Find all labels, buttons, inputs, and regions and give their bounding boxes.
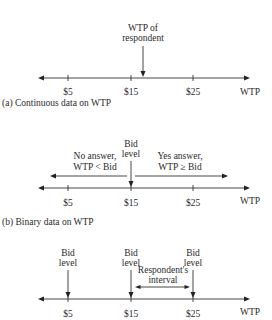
panel-b-binary: Bid level No answer, WTP < Bid Yes answe… bbox=[2, 139, 260, 228]
down-arrow-icon bbox=[66, 270, 71, 298]
bid-label-line1: Bid bbox=[124, 139, 138, 149]
down-arrow-icon bbox=[129, 270, 134, 298]
right-arrow-icon bbox=[135, 174, 228, 179]
caption-b: (b) Binary data on WTP bbox=[2, 217, 94, 228]
left-arrowhead-icon bbox=[38, 297, 44, 302]
tick-label-15: $15 bbox=[124, 309, 139, 319]
wtp-diagram: WTP of respondent $5 $15 $25 WTP (a) Con… bbox=[0, 0, 272, 320]
interval-label-line2: interval bbox=[148, 275, 177, 285]
panel-a-continuous: WTP of respondent $5 $15 $25 WTP (a) Con… bbox=[2, 23, 260, 109]
wtp-axis-b bbox=[38, 185, 250, 191]
double-arrow-icon bbox=[135, 285, 190, 289]
tick-label-5: $5 bbox=[63, 309, 73, 319]
right-arrowhead-icon bbox=[244, 76, 250, 81]
bid-label-5-line2: level bbox=[59, 258, 78, 268]
panel-c-interval: Bid level Bid level Bid level Respondent… bbox=[38, 248, 260, 319]
bid-label-25-line1: Bid bbox=[186, 248, 200, 258]
tick-label-25: $25 bbox=[186, 87, 201, 97]
right-arrowhead-icon bbox=[244, 297, 250, 302]
respondent-wtp-label-line2: respondent bbox=[122, 33, 164, 43]
wtp-axis-a bbox=[38, 75, 250, 81]
tick-label-25: $25 bbox=[186, 309, 201, 319]
tick-label-15: $15 bbox=[124, 198, 139, 208]
left-arrow-icon bbox=[50, 174, 127, 179]
yes-answer-label-line1: Yes answer, bbox=[157, 151, 202, 161]
down-arrow-icon bbox=[191, 270, 196, 298]
yes-answer-label-line2: WTP ≥ Bid bbox=[158, 162, 202, 172]
caption-a: (a) Continuous data on WTP bbox=[2, 98, 111, 109]
no-answer-label-line1: No answer, bbox=[74, 151, 117, 161]
tick-label-5: $5 bbox=[63, 198, 73, 208]
left-arrowhead-icon bbox=[38, 186, 44, 191]
respondent-wtp-label-line1: WTP of bbox=[128, 23, 159, 33]
tick-label-5: $5 bbox=[63, 87, 73, 97]
tick-label-15: $15 bbox=[124, 87, 139, 97]
wtp-axis-c bbox=[38, 296, 250, 302]
right-arrowhead-icon bbox=[244, 186, 250, 191]
bid-label-15-line1: Bid bbox=[124, 248, 138, 258]
axis-label-wtp: WTP bbox=[240, 307, 260, 317]
down-arrow-icon bbox=[129, 161, 134, 187]
axis-label-wtp: WTP bbox=[240, 196, 260, 206]
axis-label-wtp: WTP bbox=[240, 87, 260, 97]
no-answer-label-line2: WTP < Bid bbox=[73, 162, 117, 172]
left-arrowhead-icon bbox=[38, 76, 44, 81]
tick-label-25: $25 bbox=[186, 198, 201, 208]
bid-label-5-line1: Bid bbox=[61, 248, 75, 258]
down-arrow-icon bbox=[141, 46, 146, 77]
bid-label-line2: level bbox=[122, 149, 141, 159]
interval-label-line1: Respondent's bbox=[138, 265, 189, 275]
